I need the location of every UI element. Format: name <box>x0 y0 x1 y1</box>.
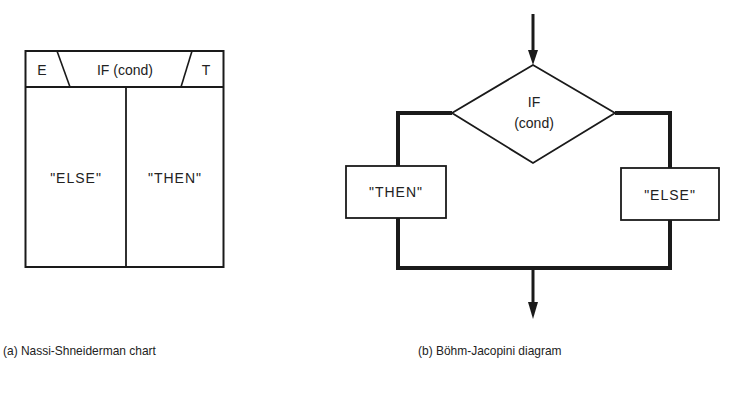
ns-condition: IF (cond) <box>97 62 153 78</box>
ns-else-branch: "ELSE" <box>50 170 102 186</box>
diagram-canvas: E IF (cond) T "ELSE" "THEN" IF (cond) "T… <box>0 0 738 396</box>
ns-then-branch: "THEN" <box>148 170 202 186</box>
exit-arrow-head-icon <box>528 302 538 319</box>
ns-else-diagonal <box>57 51 70 87</box>
merge-path <box>398 218 670 268</box>
then-box-label: "THEN" <box>369 184 423 200</box>
caption-b: (b) Böhm-Jacopini diagram <box>418 343 562 358</box>
nassi-shneiderman-chart <box>26 51 224 267</box>
ns-outer-box <box>26 51 224 267</box>
ns-then-diagonal <box>181 51 192 87</box>
entry-arrow-head-icon <box>528 50 538 65</box>
decision-label-line1: IF <box>528 94 540 110</box>
else-path-top <box>615 113 670 168</box>
decision-label-line2: (cond) <box>514 115 554 131</box>
caption-a: (a) Nassi-Shneiderman chart <box>3 343 156 358</box>
else-box-label: "ELSE" <box>644 187 696 203</box>
ns-else-marker: E <box>37 62 46 78</box>
bohm-jacopini-diagram <box>346 14 719 319</box>
decision-diamond <box>452 65 615 163</box>
ns-then-marker: T <box>202 62 211 78</box>
then-path-top <box>398 113 452 166</box>
